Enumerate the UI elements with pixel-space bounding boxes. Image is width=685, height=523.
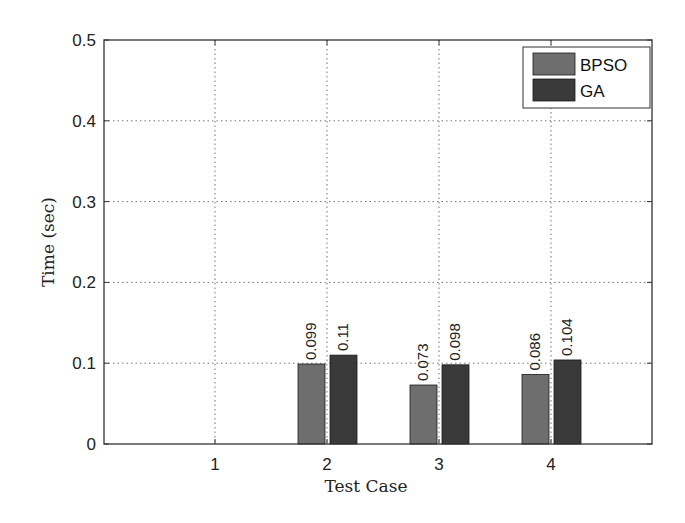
y-tick-label: 0.5 — [72, 31, 96, 50]
data-label: 0.11 — [335, 323, 352, 351]
data-label: 0.098 — [447, 323, 464, 361]
data-label: 0.073 — [415, 343, 432, 381]
y-tick-label: 0.4 — [72, 112, 96, 131]
bar-ga — [554, 360, 581, 444]
y-tick-labels: 00.10.20.30.40.5 — [72, 31, 96, 454]
bar-chart: 0.0990.0730.0860.110.0980.10400.10.20.30… — [0, 0, 685, 523]
bar-ga — [330, 355, 357, 444]
bar-bpso — [410, 385, 437, 444]
bar-bpso — [522, 375, 549, 444]
legend-label-bpso: BPSO — [580, 56, 627, 75]
legend-label-ga: GA — [580, 82, 605, 101]
x-tick-label: 3 — [434, 455, 443, 474]
data-label: 0.099 — [303, 322, 320, 360]
bar-bpso — [298, 364, 325, 444]
legend: BPSOGA — [523, 47, 650, 108]
legend-swatch-bpso — [533, 53, 575, 75]
y-tick-label: 0.2 — [72, 273, 96, 292]
legend-swatch-ga — [533, 79, 575, 101]
y-tick-label: 0 — [87, 435, 96, 454]
y-tick-label: 0.1 — [72, 354, 96, 373]
data-label: 0.086 — [527, 333, 544, 371]
x-tick-label: 1 — [210, 455, 219, 474]
data-label: 0.104 — [559, 318, 576, 356]
x-tick-label: 4 — [546, 455, 555, 474]
x-axis-label: Test Case — [325, 476, 408, 496]
x-tick-label: 2 — [322, 455, 331, 474]
bar-ga — [442, 365, 469, 444]
y-tick-label: 0.3 — [72, 193, 96, 212]
y-axis-label: Time (sec) — [38, 197, 58, 287]
x-tick-labels: 1234 — [210, 455, 555, 474]
